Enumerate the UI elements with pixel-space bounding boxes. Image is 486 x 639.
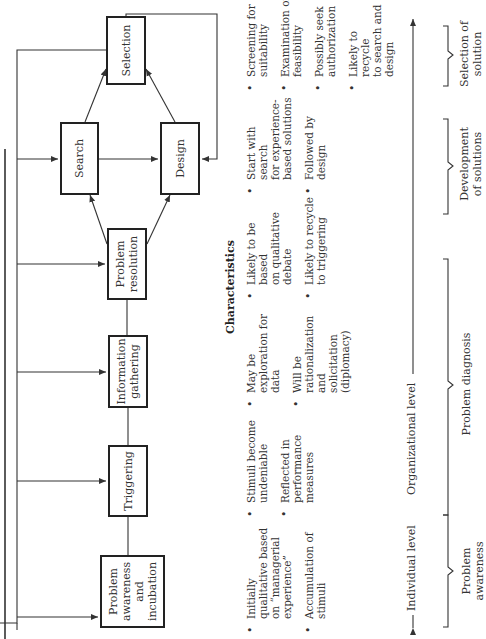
organizational-level-label: Organizational level bbox=[405, 379, 418, 499]
characteristics-information-gathering: May be exploration for data Will be rati… bbox=[245, 297, 361, 407]
bullet-item: Examination of feasibility bbox=[279, 0, 303, 91]
box-triggering: Triggering bbox=[108, 445, 148, 517]
bullet-item: Accumulation of stimuli bbox=[303, 523, 327, 633]
bullet-item: Will be rationalization and solicitation… bbox=[291, 297, 351, 407]
box-search: Search bbox=[60, 122, 99, 195]
bullet-item: Followed by design bbox=[303, 89, 327, 194]
phase-selection: Selection of solution bbox=[458, 14, 484, 94]
characteristics-problem-awareness: Initially qualitative based on “manageri… bbox=[245, 523, 337, 633]
phase-problem-awareness: Problem awareness bbox=[460, 521, 486, 621]
box-design: Design bbox=[160, 122, 200, 195]
bullet-item: Start with search for experience- based … bbox=[245, 89, 293, 194]
box-problem-resolution: Problem resolution bbox=[107, 228, 147, 300]
individual-level-label: Individual level bbox=[405, 521, 418, 615]
characteristics-heading: Characteristics bbox=[224, 240, 237, 334]
box-problem-awareness: Problem awareness and incubation bbox=[100, 555, 165, 628]
bullet-item: Likely to be based on qualitative debate bbox=[245, 194, 293, 299]
bullet-item: Possibly seek authorization bbox=[313, 0, 337, 91]
phase-problem-diagnosis: Problem diagnosis bbox=[460, 329, 473, 439]
characteristics-selection: Screening for suitability Examination of… bbox=[245, 0, 405, 91]
bullet-item: Reflected in performance measures bbox=[279, 417, 315, 517]
characteristics-triggering: Stimuli become undeniable Reflected in p… bbox=[245, 417, 325, 517]
bullet-item: May be exploration for data bbox=[245, 297, 281, 407]
bullet-item: Likely to recycle to search and design bbox=[347, 0, 395, 91]
characteristics-problem-resolution: Likely to be based on qualitative debate… bbox=[245, 194, 337, 299]
bullet-item: Screening for suitability bbox=[245, 0, 269, 91]
characteristics-search-design: Start with search for experience- based … bbox=[245, 89, 337, 194]
bullet-item: Likely to recycle to triggering bbox=[303, 194, 327, 299]
bullet-item: Initially qualitative based on “manageri… bbox=[245, 523, 293, 633]
box-selection: Selection bbox=[106, 16, 146, 85]
phase-development: Development of solutions bbox=[458, 119, 484, 209]
bullet-item: Stimuli become undeniable bbox=[245, 417, 269, 517]
box-information-gathering: Information gathering bbox=[108, 335, 148, 408]
